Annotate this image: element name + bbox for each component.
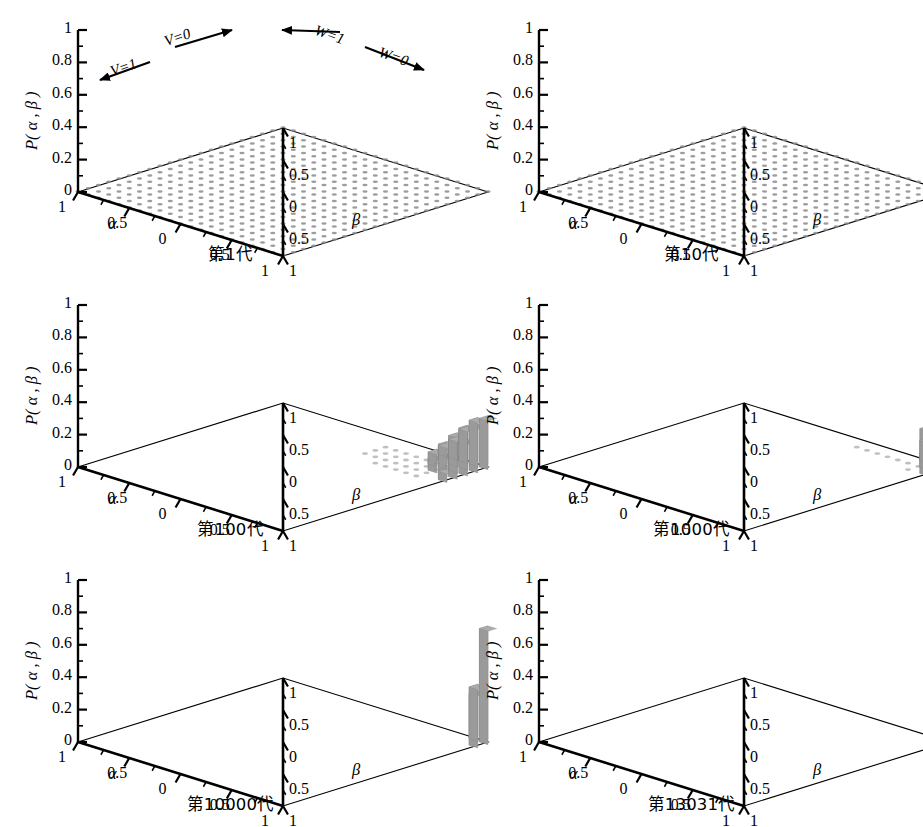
beta-tick-label: 0 [289, 198, 297, 216]
alpha-tick-label: 1 [519, 473, 527, 491]
plot-panel-gen1000: 00.20.40.60.81P( α , β )10.500.5110.500.… [461, 277, 922, 553]
alpha-axis-label: α [108, 489, 117, 509]
alpha-tick-label: 1 [519, 748, 527, 766]
beta-axis-label: β [813, 485, 821, 505]
z-tick-label: 0.8 [30, 51, 72, 69]
alpha-axis-label: α [569, 214, 578, 234]
panel-caption-text: 第13031代 [648, 791, 736, 815]
alpha-axis-label: α [108, 764, 117, 784]
floor-outline [539, 403, 923, 531]
z-tick-label: 0.8 [491, 51, 533, 69]
z-tick-label: 1 [491, 569, 533, 587]
beta-tick-label: 0.5 [289, 441, 309, 459]
plot-panel-gen10: 00.20.40.60.81P( α , β )10.500.5110.500.… [461, 2, 922, 278]
panel-caption-gen10: 第10代 [461, 241, 922, 265]
beta-tick-label: 0.5 [289, 716, 309, 734]
alpha-axis-label: α [108, 214, 117, 234]
alpha-tick-label: 1 [519, 198, 527, 216]
floor-outline [539, 678, 923, 806]
z-tick-label: 0.8 [491, 326, 533, 344]
beta-tick-label: 0 [289, 748, 297, 766]
panel-caption-text: 第10000代 [187, 791, 275, 815]
z-tick-label: 0.2 [491, 424, 533, 442]
beta-axis-label: β [813, 210, 821, 230]
z-tick-label: 0.8 [30, 326, 72, 344]
z-tick-label: 1 [30, 569, 72, 587]
beta-tick-label: 0 [750, 748, 758, 766]
beta-axis-label: β [352, 760, 360, 780]
z-tick-label: 0.8 [30, 601, 72, 619]
z-tick-label: 0.2 [491, 149, 533, 167]
beta-tick-label: 1 [750, 134, 758, 152]
z-tick-label: 1 [491, 294, 533, 312]
panel-caption-gen10000: 第10000代 [0, 791, 461, 815]
beta-tick-label: 0 [750, 473, 758, 491]
figure-panel-grid: 00.20.40.60.81P( α , β )10.500.5110.500.… [0, 0, 923, 827]
z-tick-label: 0.2 [491, 699, 533, 717]
plot-panel-gen10000: 00.20.40.60.81P( α , β )10.500.5110.500.… [0, 552, 461, 827]
beta-tick-label: 0.5 [750, 441, 770, 459]
z-tick-label: 1 [491, 19, 533, 37]
beta-tick-label: 0.5 [750, 166, 770, 184]
beta-tick-label: 0.5 [750, 716, 770, 734]
plot-panel-gen1: 00.20.40.60.81P( α , β )10.500.5110.500.… [0, 2, 461, 278]
data-layer-gen1000 [854, 391, 923, 476]
beta-tick-label: 1 [289, 409, 297, 427]
z-axis-label: P( α , β ) [22, 91, 42, 150]
panel-caption-gen100: 第100代 [0, 516, 461, 540]
z-tick-label: 0 [491, 731, 533, 749]
beta-tick-label: 1 [289, 684, 297, 702]
z-tick-label: 0.2 [30, 149, 72, 167]
z-axis-label: P( α , β ) [483, 91, 503, 150]
alpha-tick-label: 1 [58, 473, 66, 491]
z-tick-label: 0 [30, 181, 72, 199]
z-tick-label: 1 [30, 294, 72, 312]
beta-tick-label: 1 [750, 684, 758, 702]
beta-tick-label: 1 [289, 134, 297, 152]
beta-tick-label: 0.5 [289, 166, 309, 184]
panel-caption-text: 第1代 [208, 241, 253, 265]
panel-caption-gen1000: 第1000代 [461, 516, 922, 540]
z-axis-label: P( α , β ) [22, 641, 42, 700]
z-axis-label: P( α , β ) [22, 366, 42, 425]
beta-axis-label: β [813, 760, 821, 780]
z-tick-label: 0 [30, 731, 72, 749]
z-tick-label: 0.2 [30, 424, 72, 442]
beta-axis-label: β [352, 485, 360, 505]
plot-panel-gen13031: 00.20.40.60.81P( α , β )10.500.5110.500.… [461, 552, 922, 827]
z-axis-label: P( α , β ) [483, 366, 503, 425]
z-axis-label: P( α , β ) [483, 641, 503, 700]
z-tick-label: 0 [30, 456, 72, 474]
beta-axis-label: β [352, 210, 360, 230]
panel-caption-text: 第10代 [664, 241, 720, 265]
alpha-axis-label: α [569, 764, 578, 784]
panel-caption-text: 第100代 [197, 516, 264, 540]
z-tick-label: 1 [30, 19, 72, 37]
panel-caption-gen1: 第1代 [0, 241, 461, 265]
plot-panel-gen100: 00.20.40.60.81P( α , β )10.500.5110.500.… [0, 277, 461, 553]
z-tick-label: 0.8 [491, 601, 533, 619]
panel-caption-gen13031: 第13031代 [461, 791, 922, 815]
beta-tick-label: 1 [750, 409, 758, 427]
alpha-tick-label: 1 [58, 748, 66, 766]
z-tick-label: 0.2 [30, 699, 72, 717]
beta-tick-label: 0 [289, 473, 297, 491]
alpha-tick-label: 1 [58, 198, 66, 216]
alpha-axis-label: α [569, 489, 578, 509]
z-tick-label: 0 [491, 456, 533, 474]
data-layer-gen10 [536, 126, 923, 257]
z-tick-label: 0 [491, 181, 533, 199]
beta-tick-label: 0 [750, 198, 758, 216]
panel-caption-text: 第1000代 [653, 516, 730, 540]
